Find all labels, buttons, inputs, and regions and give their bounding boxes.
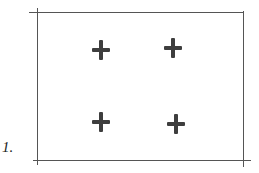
frame-left-line xyxy=(37,8,38,165)
cross-mark-top-left xyxy=(92,40,110,60)
frame-top-line xyxy=(29,12,244,13)
cross-mark-bottom-right xyxy=(167,114,185,134)
frame-bottom-line xyxy=(33,160,251,161)
frame-right-line xyxy=(243,11,244,167)
cross-mark-bottom-left xyxy=(92,112,110,132)
figure-label: 1. xyxy=(2,139,13,156)
cross-mark-top-right xyxy=(164,38,182,58)
